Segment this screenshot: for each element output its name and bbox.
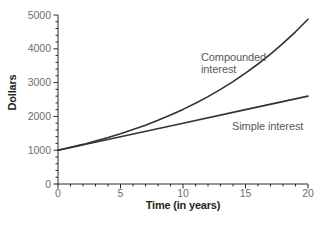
y-axis-title: Dollars	[6, 53, 19, 133]
y-tick-label: 0	[45, 178, 51, 190]
y-tick-label: 4000	[28, 42, 52, 54]
x-tick-label: 15	[240, 187, 252, 199]
x-tick-label: 10	[177, 187, 189, 199]
chart-canvas: 01000200030004000500005101520	[0, 0, 336, 229]
x-axis-title: Time (in years)	[123, 199, 243, 211]
y-tick-label: 5000	[28, 9, 52, 21]
y-tick-label: 3000	[28, 76, 52, 88]
annotation-compounded-interest: Compounded interest	[201, 52, 273, 75]
annotation-simple-interest: Simple interest	[232, 121, 332, 133]
interest-comparison-chart: 01000200030004000500005101520 Dollars Ti…	[0, 0, 336, 229]
y-tick-label: 2000	[28, 110, 52, 122]
x-tick-label: 0	[55, 187, 61, 199]
y-tick-label: 1000	[28, 144, 52, 156]
x-tick-label: 5	[118, 187, 124, 199]
x-tick-label: 20	[302, 187, 314, 199]
